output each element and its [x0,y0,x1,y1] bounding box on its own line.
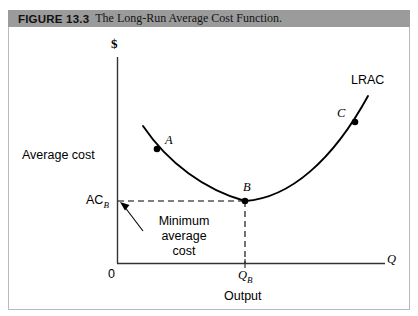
figure-container: FIGURE 13.3 The Long-Run Average Cost Fu… [0,0,418,316]
annotation-line-2: average [137,229,231,244]
annotation-line-3: cost [137,244,231,259]
data-point-b-label: B [243,180,251,195]
acb-subscript: B [103,200,109,210]
qb-subscript: B [247,275,253,285]
y-axis-unit-label: $ [111,36,118,52]
x-axis-title: Output [224,289,262,303]
lrac-curve [143,96,368,201]
data-point-a-marker [154,146,161,153]
minimum-average-cost-annotation: Minimum average cost [137,214,231,259]
origin-label: 0 [108,267,115,281]
annotation-arrow-head [120,202,130,211]
qb-prefix: Q [238,268,247,282]
annotation-line-1: Minimum [137,214,231,229]
lrac-curve-label: LRAC [351,73,384,87]
acb-prefix: AC [86,193,103,207]
y-axis-tick-label-acb: ACB [86,193,109,210]
data-point-b-marker [242,198,249,205]
y-axis-title: Average cost [22,148,95,162]
x-axis-tick-label-qb: QB [238,268,253,285]
data-point-c-label: C [337,106,345,121]
x-axis-symbol-label: Q [387,252,396,267]
data-point-a-label: A [165,133,173,148]
data-point-c-marker [352,119,359,126]
